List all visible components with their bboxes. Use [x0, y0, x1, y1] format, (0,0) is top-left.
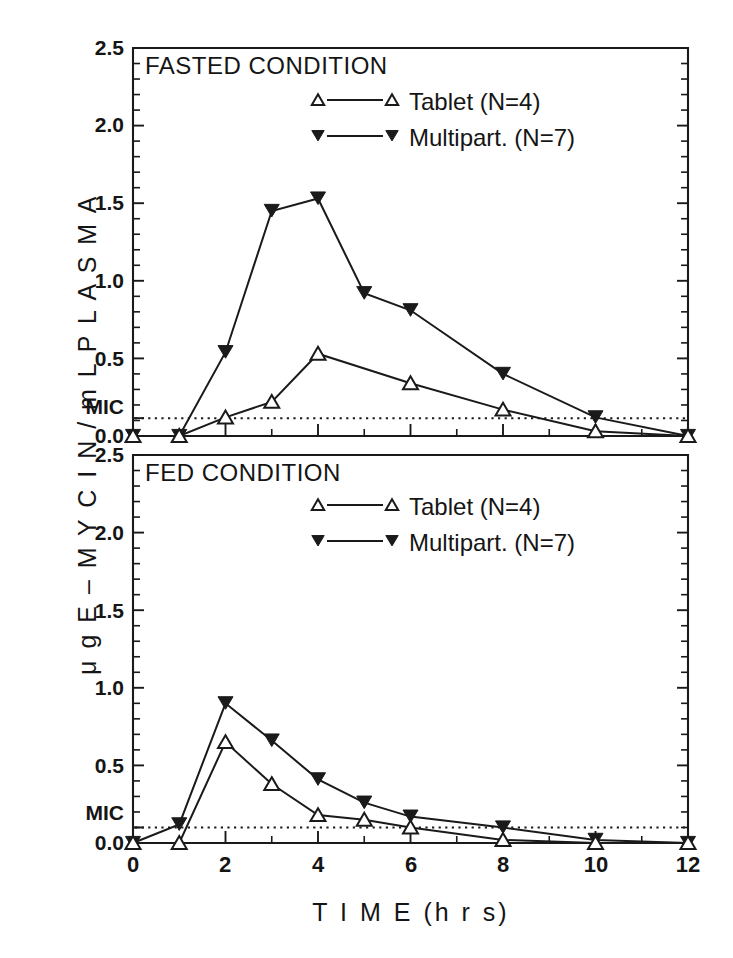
data-marker-tablet — [403, 376, 418, 389]
data-marker-tablet — [218, 410, 233, 423]
legend-symbol-tablet-fed — [386, 499, 398, 510]
data-marker-tablet — [311, 347, 326, 360]
data-marker-multipart — [172, 818, 187, 831]
data-marker-multipart — [264, 204, 279, 217]
legend-symbol-tablet-fed — [312, 499, 324, 510]
figure-root: μ g E – M Y C I N / m L P L A S M A T I … — [0, 0, 733, 958]
data-marker-multipart — [496, 367, 511, 380]
data-marker-tablet — [218, 735, 233, 748]
data-marker-multipart — [357, 287, 372, 300]
series-line-tablet — [133, 354, 688, 436]
data-marker-multipart — [311, 192, 326, 205]
data-marker-multipart — [357, 796, 372, 809]
plot-canvas — [0, 0, 733, 958]
legend-symbol-multipart-fed — [312, 536, 324, 546]
legend-symbol-multipart-fasted — [312, 131, 324, 141]
data-marker-tablet — [496, 403, 511, 416]
legend-symbol-multipart-fed — [386, 536, 398, 546]
legend-symbol-multipart-fasted — [386, 131, 398, 141]
data-marker-multipart — [218, 346, 233, 359]
legend-symbol-tablet-fasted — [386, 94, 398, 105]
axes-layer — [133, 48, 688, 843]
data-series-layer — [126, 192, 696, 849]
series-line-multipart — [133, 199, 688, 436]
data-marker-multipart — [588, 411, 603, 424]
legend-symbols-layer — [312, 94, 398, 546]
legend-symbol-tablet-fasted — [312, 94, 324, 105]
data-marker-multipart — [311, 773, 326, 786]
